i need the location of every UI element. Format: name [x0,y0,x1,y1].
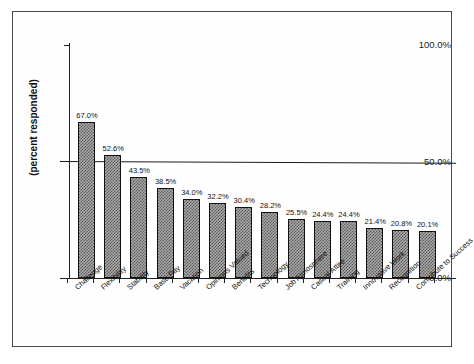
x-axis-tick-mark [67,278,68,283]
bars-layer: 67.0%52.6%43.5%38.5%34.0%32.2%30.4%28.2%… [70,45,456,278]
bar[interactable] [78,122,95,278]
x-axis-tick-mark [198,278,199,283]
x-axis-tick-mark [355,278,356,283]
x-axis-tick-mark [250,278,251,283]
bar-slot: 52.6% [100,45,126,278]
x-axis-tick-mark [329,278,330,283]
bar-slot: 25.5% [284,45,310,278]
bar-value-label: 20.1% [409,220,447,229]
bar-slot: 24.4% [310,45,336,278]
bar-slot: 28.2% [257,45,283,278]
x-axis-tick-mark [146,278,147,283]
y-axis-title: (percent responded) [28,48,39,208]
bar-slot: 43.5% [126,45,152,278]
x-axis-tick-mark [224,278,225,283]
x-axis-tick-mark [172,278,173,283]
x-axis-tick-mark [381,278,382,283]
bar[interactable] [104,155,121,278]
bar-slot: 32.2% [205,45,231,278]
x-axis-tick-mark [119,278,120,283]
bar-slot: 24.4% [336,45,362,278]
x-axis-tick-mark [408,278,409,283]
bar-slot: 34.0% [179,45,205,278]
plot-area: 67.0%52.6%43.5%38.5%34.0%32.2%30.4%28.2%… [70,45,456,278]
bar-slot: 21.4% [362,45,388,278]
x-axis-tick-mark [303,278,304,283]
bar[interactable] [157,188,174,278]
x-axis-tick-mark [277,278,278,283]
bar-slot: 38.5% [153,45,179,278]
bar-slot: 20.1% [415,45,441,278]
figure-frame: (percent responded) 100.0% 50.0% 0.0% 67… [12,11,452,347]
bar-slot: 30.4% [231,45,257,278]
bar[interactable] [130,177,147,278]
x-axis-tick-mark [93,278,94,283]
x-axis-tick-mark [434,278,435,283]
bar-slot: 20.8% [388,45,414,278]
bar-slot: 67.0% [74,45,100,278]
